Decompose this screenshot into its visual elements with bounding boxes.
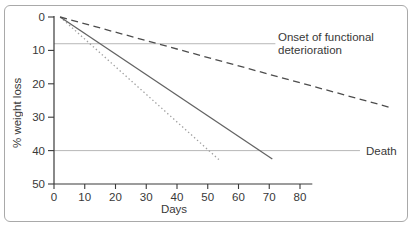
figure: 0102030405001020304050607080 % weight lo… [0,0,417,230]
x-tick-label: 0 [51,191,57,203]
y-axis-title: % weight loss [11,55,27,170]
x-tick-label: 80 [294,191,307,203]
x-tick-label: 60 [232,191,245,203]
x-tick-label: 30 [140,191,153,203]
series-line-intermediate-weight-loss [60,17,272,159]
x-axis-title: Days [152,203,196,215]
y-tick-label: 10 [32,44,45,56]
x-tick-label: 50 [201,191,214,203]
x-tick-label: 40 [171,191,184,203]
onset-annotation-label: Onset of functional deterioration [278,31,390,57]
y-tick-label: 20 [32,78,45,90]
death-annotation-label: Death [366,145,411,158]
x-tick-label: 20 [109,191,122,203]
x-tick-label: 10 [78,191,91,203]
y-tick-label: 0 [39,11,45,23]
y-tick-label: 50 [32,178,45,190]
y-tick-label: 40 [32,145,45,157]
y-tick-label: 30 [32,111,45,123]
x-tick-label: 70 [263,191,276,203]
